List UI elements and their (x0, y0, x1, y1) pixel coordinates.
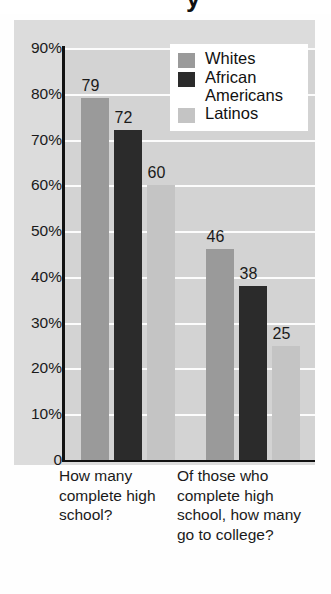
y-axis-tick-30: 30% (8, 315, 62, 331)
legend-label-african-americans: African Americans (205, 69, 302, 104)
y-axis-tick-60: 60% (8, 178, 62, 194)
chart-panel: 90%80%70%60%50%40%30%20%10%0 79726046382… (14, 20, 315, 465)
y-axis-tick-40: 40% (8, 269, 62, 285)
legend-label-latinos: Latinos (205, 105, 258, 123)
y-axis-tick-20: 20% (8, 361, 62, 377)
legend-label-whites: Whites (205, 50, 255, 68)
y-axis-tick-50: 50% (8, 223, 62, 239)
chart-legend: WhitesAfrican AmericansLatinos (170, 44, 308, 131)
cropped-title-sliver: y (0, 0, 331, 14)
bar-value-label-0-whites: 79 (82, 78, 100, 94)
legend-item-whites: Whites (178, 50, 302, 68)
title-fragment-glyph: y (186, 0, 201, 14)
bar-0-whites (81, 98, 109, 460)
bar-value-label-1-whites: 46 (207, 229, 225, 245)
legend-swatch-whites-icon (178, 53, 195, 68)
x-axis-category-labels: How many complete high school? Of those … (14, 466, 315, 592)
legend-item-african-americans: African Americans (178, 69, 302, 104)
bar-value-label-1-latinos: 25 (273, 326, 291, 342)
y-axis-tick-90: 90% (8, 40, 62, 56)
bar-0-latinos (147, 185, 175, 460)
bar-value-label-0-african-americans: 72 (115, 110, 133, 126)
bar-1-whites (206, 249, 234, 460)
bar-1-african-americans (239, 286, 267, 460)
legend-swatch-african-americans-icon (178, 72, 195, 87)
legend-swatch-latinos-icon (178, 108, 195, 123)
bar-value-label-1-african-americans: 38 (240, 266, 258, 282)
x-axis-line (62, 460, 315, 462)
y-axis-tick-10: 10% (8, 406, 62, 422)
bar-0-african-americans (114, 130, 142, 460)
bar-1-latinos (272, 346, 300, 460)
category-label-1: Of those who complete high school, how m… (177, 466, 315, 544)
category-label-0: How many complete high school? (59, 466, 177, 525)
legend-item-latinos: Latinos (178, 105, 302, 123)
bar-value-label-0-latinos: 60 (148, 165, 166, 181)
y-axis-line (62, 46, 65, 460)
y-axis-tick-labels: 90%80%70%60%50%40%30%20%10%0 (14, 20, 62, 465)
y-axis-tick-80: 80% (8, 86, 62, 102)
y-axis-tick-70: 70% (8, 132, 62, 148)
